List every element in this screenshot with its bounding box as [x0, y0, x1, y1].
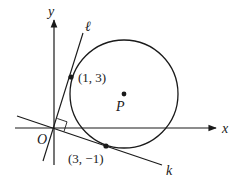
tangent-line-l: [43, 33, 83, 161]
geometry-diagram: y x O P (1, 3) (3, −1) ℓ k: [0, 0, 249, 182]
center-point-p: [122, 92, 127, 97]
center-label-p: P: [115, 99, 125, 114]
point-label-3-neg1: (3, −1): [68, 151, 104, 166]
y-axis-label: y: [46, 4, 55, 19]
x-axis-label: x: [221, 121, 229, 136]
origin-label: O: [37, 132, 47, 147]
point-label-1-3: (1, 3): [78, 70, 106, 85]
line-label-l: ℓ: [85, 19, 91, 34]
line-label-k: k: [166, 163, 173, 178]
point-3-neg1: [103, 143, 108, 148]
point-1-3: [68, 74, 73, 79]
